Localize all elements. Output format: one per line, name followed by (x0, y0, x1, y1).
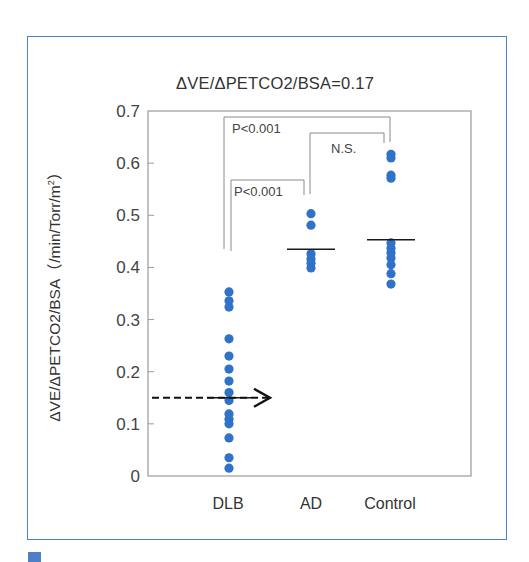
bracket-dlb-control (224, 117, 390, 249)
caption-marker-icon (28, 552, 41, 562)
data-point (386, 153, 395, 162)
significance-brackets: P<0.001N.S.P<0.001 (224, 117, 390, 251)
data-point (306, 209, 315, 218)
category-labels: DLBADControl (212, 495, 415, 512)
data-point (224, 388, 233, 397)
data-point (224, 464, 233, 473)
y-tick-label: 0.2 (116, 363, 140, 382)
data-point (224, 453, 233, 462)
y-tick-label: 0.1 (116, 415, 140, 434)
data-point (224, 377, 233, 386)
data-point (306, 221, 315, 230)
y-tick-label: 0.5 (116, 206, 140, 225)
y-tick-label: 0.7 (116, 102, 140, 121)
significance-label: N.S. (331, 141, 356, 156)
data-point (306, 263, 315, 272)
data-point (386, 269, 395, 278)
category-label: DLB (212, 495, 243, 512)
data-point (224, 302, 233, 311)
data-point (224, 365, 233, 374)
significance-label: P<0.001 (234, 184, 283, 199)
data-point (386, 260, 395, 269)
y-tick-label: 0.6 (116, 154, 140, 173)
data-point (224, 351, 233, 360)
y-tick-label: 0.4 (116, 258, 140, 277)
category-label: Control (364, 495, 416, 512)
data-point (224, 287, 233, 296)
y-tick-label: 0 (131, 467, 140, 486)
data-point (386, 280, 395, 289)
category-label: AD (300, 495, 322, 512)
significance-label: P<0.001 (232, 121, 281, 136)
data-point (224, 433, 233, 442)
axes: 00.10.20.30.40.50.60.7 (116, 102, 471, 486)
data-point (224, 419, 233, 428)
dashed-arrow (152, 389, 270, 407)
caption-strip (27, 550, 507, 562)
y-tick-label: 0.3 (116, 311, 140, 330)
data-point (386, 174, 395, 183)
data-point (224, 334, 233, 343)
